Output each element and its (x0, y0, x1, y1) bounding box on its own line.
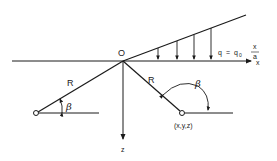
point-right (180, 111, 185, 116)
x-axis-label: x (256, 59, 260, 66)
load-arrows (158, 28, 211, 59)
radius-line-right (123, 61, 180, 111)
z-axis-label: z (121, 146, 125, 153)
radius-label-right: R (148, 75, 155, 85)
radius-label-left: R (67, 78, 74, 88)
formula-equals: = (226, 49, 230, 56)
radius-line-left (38, 61, 123, 112)
angle-label-right: β (194, 78, 201, 89)
point-left (34, 111, 39, 116)
formula-numerator: x (253, 43, 257, 50)
angle-label-left: β (65, 101, 72, 112)
angle-arc-right (163, 83, 208, 110)
origin-label: O (118, 48, 125, 58)
formula-coef: q (234, 49, 238, 57)
diagram-canvas: x z O q = q 0 x a R β R β (x,y,z) (0, 0, 277, 161)
formula-lhs: q (218, 49, 222, 57)
point-coordinates-label: (x,y,z) (174, 122, 193, 130)
load-formula: q = q 0 x a (218, 43, 259, 60)
formula-denominator: a (253, 53, 257, 60)
angle-arc-left (60, 99, 62, 113)
formula-coef-sub: 0 (239, 52, 242, 58)
